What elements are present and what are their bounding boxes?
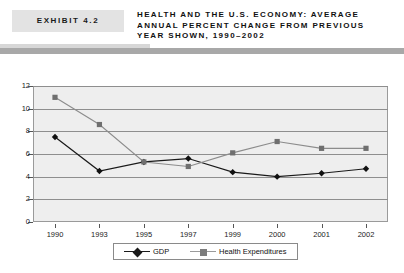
x-tick-label-2002: 2002 <box>358 230 375 239</box>
x-tick-label-1999: 1999 <box>224 230 241 239</box>
legend-label-health: Health Expenditures <box>219 247 287 256</box>
x-tick-label-1997: 1997 <box>180 230 197 239</box>
square-marker-icon <box>186 164 191 169</box>
x-tick-label-1995: 1995 <box>136 230 153 239</box>
square-marker-icon <box>52 95 57 100</box>
legend-item-health[interactable]: Health Expenditures <box>190 244 287 259</box>
x-axis-labels: 19901993199519971999200020012002 <box>33 224 388 244</box>
diamond-marker-icon <box>230 169 236 175</box>
exhibit-page: EXHIBIT 4.2 HEALTH AND THE U.S. ECONOMY:… <box>0 0 404 273</box>
page-title: HEALTH AND THE U.S. ECONOMY: AVERAGE ANN… <box>137 10 399 42</box>
x-tick-mark-2002 <box>366 224 367 228</box>
data-series-layer <box>33 86 388 222</box>
line-chart: 024681012 199019931995199719992000200120… <box>0 60 404 273</box>
series-line <box>55 97 366 166</box>
title-line-3: YEAR SHOWN, 1990–2002 <box>137 31 399 42</box>
header-divider <box>0 48 404 54</box>
square-marker-icon <box>363 146 368 151</box>
x-tick-label-2001: 2001 <box>313 230 330 239</box>
series-health-expenditures <box>52 95 368 169</box>
square-marker-icon <box>275 139 280 144</box>
title-line-2: ANNUAL PERCENT CHANGE FROM PREVIOUS <box>137 21 399 32</box>
legend-item-gdp[interactable]: GDP <box>124 244 169 259</box>
exhibit-number-label: EXHIBIT 4.2 <box>12 10 124 32</box>
diamond-marker-icon <box>132 247 142 257</box>
title-line-1: HEALTH AND THE U.S. ECONOMY: AVERAGE <box>137 10 399 21</box>
x-tick-label-2000: 2000 <box>269 230 286 239</box>
legend-label-gdp: GDP <box>153 247 169 256</box>
square-marker-icon <box>200 249 207 256</box>
x-tick-mark-1997 <box>188 224 189 228</box>
chart-legend: GDP Health Expenditures <box>113 243 298 260</box>
x-tick-mark-2000 <box>277 224 278 228</box>
square-marker-icon <box>230 150 235 155</box>
x-tick-mark-1995 <box>144 224 145 228</box>
legend-swatch-health <box>190 247 216 256</box>
exhibit-header: EXHIBIT 4.2 HEALTH AND THE U.S. ECONOMY:… <box>0 0 404 48</box>
y-tick-label-10: 10 <box>2 105 30 113</box>
square-marker-icon <box>97 122 102 127</box>
y-axis-labels: 024681012 <box>0 86 30 222</box>
x-tick-label-1990: 1990 <box>47 230 64 239</box>
diamond-marker-icon <box>274 173 280 179</box>
x-tick-mark-1999 <box>233 224 234 228</box>
x-tick-mark-1993 <box>99 224 100 228</box>
square-marker-icon <box>319 146 324 151</box>
x-tick-mark-1990 <box>55 224 56 228</box>
x-tick-mark-2001 <box>322 224 323 228</box>
legend-swatch-gdp <box>124 247 150 256</box>
y-tick-label-12: 12 <box>2 82 30 90</box>
y-tick-label-2: 2 <box>2 195 30 203</box>
y-tick-label-0: 0 <box>2 218 30 226</box>
y-tick-label-6: 6 <box>2 150 30 158</box>
x-tick-label-1993: 1993 <box>91 230 108 239</box>
y-tick-label-4: 4 <box>2 173 30 181</box>
y-tick-label-8: 8 <box>2 127 30 135</box>
diamond-marker-icon <box>363 166 369 172</box>
diamond-marker-icon <box>318 170 324 176</box>
exhibit-number-box: EXHIBIT 4.2 <box>12 10 124 32</box>
series-gdp <box>52 134 369 180</box>
diamond-marker-icon <box>185 155 191 161</box>
square-marker-icon <box>141 159 146 164</box>
